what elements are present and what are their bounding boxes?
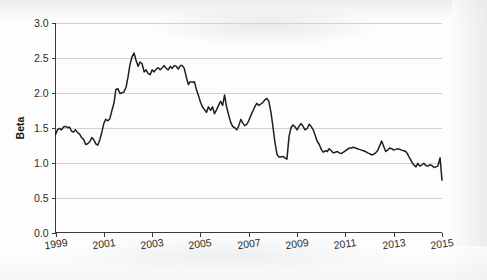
y-tick-label-1.5: 1.5 (34, 122, 49, 134)
x-tick-label-2013: 2013 (382, 236, 407, 251)
x-tick-label-2015: 2015 (430, 236, 455, 251)
scanned-page: 0.00.51.01.52.02.53.0 199920012003200520… (0, 0, 487, 280)
y-tick-label-0.5: 0.5 (34, 192, 49, 204)
y-axis-title: Beta (14, 116, 26, 139)
y-tick-label-2.0: 2.0 (34, 87, 49, 99)
beta-time-series-chart: 0.00.51.01.52.02.53.0 199920012003200520… (0, 0, 487, 280)
y-tick-label-0.0: 0.0 (34, 227, 49, 239)
y-tick-label-2.5: 2.5 (34, 52, 49, 64)
x-tick-group: 199920012003200520072009201120132015 (44, 233, 455, 252)
gridline-group (56, 24, 443, 199)
x-tick-label-1999: 1999 (44, 236, 69, 251)
x-tick-label-2007: 2007 (237, 236, 262, 251)
x-tick-label-2005: 2005 (188, 236, 213, 251)
y-tick-label-1.0: 1.0 (34, 157, 49, 169)
y-tick-label-3.0: 3.0 (34, 17, 49, 29)
x-tick-label-2001: 2001 (92, 236, 117, 251)
chart-svg: 0.00.51.01.52.02.53.0 199920012003200520… (0, 0, 487, 280)
beta-series-line (56, 53, 443, 180)
x-tick-label-2003: 2003 (140, 236, 165, 251)
x-tick-label-2009: 2009 (285, 236, 310, 251)
y-tick-group: 0.00.51.01.52.02.53.0 (34, 17, 56, 239)
x-tick-label-2011: 2011 (333, 236, 357, 251)
